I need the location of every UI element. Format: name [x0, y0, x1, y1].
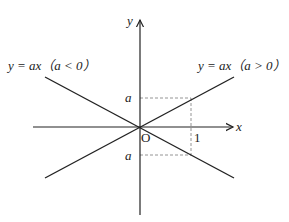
a-upper-label: a	[125, 90, 132, 105]
line-positive-label: y = ax（a > 0）	[196, 58, 286, 73]
coordinate-plane: y x O 1 a a y = ax（a < 0） y = ax（a > 0）	[0, 0, 289, 222]
y-axis-label: y	[125, 13, 133, 28]
linear-function-diagram: y x O 1 a a y = ax（a < 0） y = ax（a > 0）	[0, 0, 289, 222]
x-axis-label: x	[235, 119, 242, 134]
one-label: 1	[194, 130, 201, 145]
line-negative-label: y = ax（a < 0）	[6, 58, 96, 73]
origin-label: O	[141, 130, 150, 145]
a-lower-label: a	[125, 148, 132, 163]
